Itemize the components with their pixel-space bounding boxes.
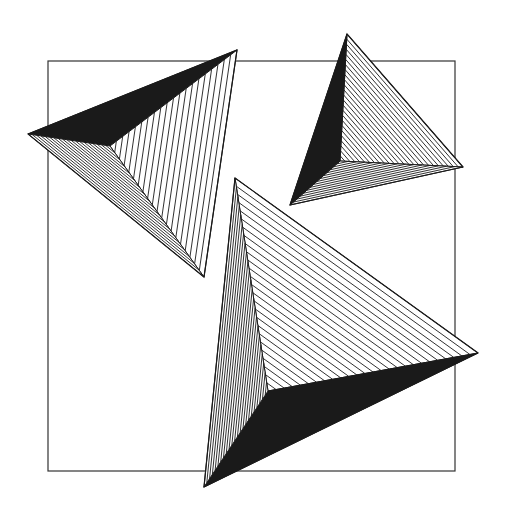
pyramid-artwork bbox=[0, 0, 508, 515]
